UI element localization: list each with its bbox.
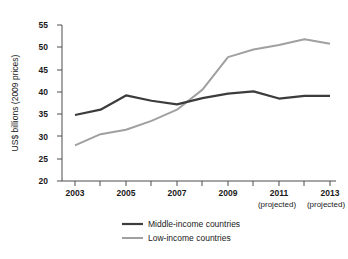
x-tick-label-2009: 2009: [219, 188, 238, 198]
y-tick-label: 25: [39, 154, 49, 164]
legend-label-middle-income: Middle-income countries: [148, 219, 240, 229]
line-chart: US$ billions (2009 prices) 55 50 45 40 3…: [0, 0, 348, 259]
x-tick-label-2013: 2013: [321, 188, 340, 198]
y-tick-label: 55: [39, 20, 49, 30]
x-tick-sublabel-2013: (projected): [307, 200, 346, 209]
series-group: [75, 39, 330, 145]
y-tick-label: 35: [39, 109, 49, 119]
y-tick-label: 20: [39, 176, 49, 186]
series-line-low-income: [75, 39, 330, 145]
axis-lines: [62, 25, 336, 181]
x-tick-marks: [75, 181, 330, 186]
chart-figure: US$ billions (2009 prices) 55 50 45 40 3…: [0, 0, 348, 259]
y-tick-label: 45: [39, 65, 49, 75]
x-axis-tick-labels: 2003 2005 2007 2009 2011 2013 (projected…: [66, 188, 346, 209]
chart-legend: Middle-income countries Low-income count…: [122, 219, 240, 243]
y-axis-title: US$ billions (2009 prices): [10, 54, 20, 151]
y-tick-label: 30: [39, 132, 49, 142]
x-tick-label-2011: 2011: [270, 188, 289, 198]
y-tick-label: 40: [39, 87, 49, 97]
y-tick-marks: [57, 25, 62, 181]
series-line-middle-income: [75, 91, 330, 115]
x-tick-sublabel-2011: (projected): [258, 200, 297, 209]
y-axis-tick-labels: 55 50 45 40 35 30 25 20: [39, 20, 49, 186]
x-tick-label-2007: 2007: [168, 188, 187, 198]
y-tick-label: 50: [39, 42, 49, 52]
x-tick-label-2005: 2005: [117, 188, 136, 198]
legend-label-low-income: Low-income countries: [148, 233, 231, 243]
x-tick-label-2003: 2003: [66, 188, 85, 198]
